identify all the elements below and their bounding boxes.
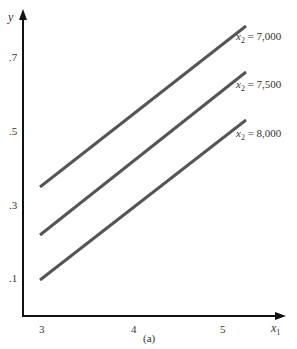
- series-line-8000: [40, 120, 246, 280]
- y-tick-0.7: .7: [9, 52, 17, 63]
- series-label-value: = 7,000: [245, 30, 281, 42]
- x-axis-arrow-icon: [275, 312, 286, 320]
- x-tick-5: 5: [220, 324, 226, 335]
- series-line-7000: [40, 26, 246, 187]
- y-tick-0.1: .1: [9, 273, 17, 284]
- chart-canvas: [0, 0, 297, 349]
- series-label-value: = 7,500: [245, 78, 281, 90]
- y-tick-0.5: .5: [9, 126, 17, 137]
- x-axis-label-sub: 1: [276, 328, 280, 337]
- figure-caption: (a): [143, 333, 155, 344]
- x-tick-3: 3: [39, 324, 45, 335]
- series-label-7000: x2 = 7,000: [236, 31, 281, 45]
- x-axis-label: x1: [271, 322, 280, 337]
- series-label-value: = 8,000: [245, 127, 281, 139]
- y-axis-label: y: [8, 11, 13, 23]
- series-label-7500: x2 = 7,500: [236, 79, 281, 93]
- y-axis-arrow-icon: [19, 9, 27, 20]
- x-tick-4: 4: [131, 324, 137, 335]
- series-line-7500: [40, 72, 246, 235]
- y-tick-0.3: .3: [9, 200, 17, 211]
- series-label-8000: x2 = 8,000: [236, 128, 281, 142]
